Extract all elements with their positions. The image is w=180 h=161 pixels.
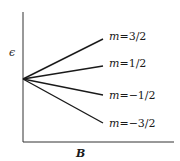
x-axis-label: B xyxy=(75,147,85,160)
level-label-m-3-2: m=3/2 xyxy=(109,30,146,43)
level-line-m-neg-1-2 xyxy=(23,79,103,95)
y-axis-label: ϵ xyxy=(9,46,15,59)
level-label-m-neg-3-2: m=−3/2 xyxy=(109,117,156,130)
level-label-m-neg-1-2: m=−1/2 xyxy=(109,89,156,102)
level-label-m-1-2: m=1/2 xyxy=(109,57,146,70)
zeeman-diagram: ϵ B m=3/2 m=1/2 m=−1/2 m=−3/2 xyxy=(0,0,180,161)
level-line-m-neg-3-2 xyxy=(23,79,103,123)
